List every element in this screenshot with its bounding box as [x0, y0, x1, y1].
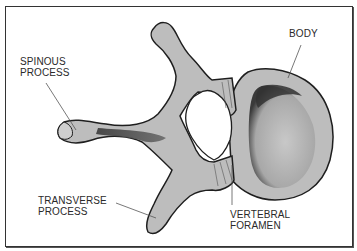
label-spinous-line1: SPINOUS	[20, 56, 70, 67]
label-transverse-line1: TRANSVERSE	[38, 195, 107, 206]
label-transverse-process: TRANSVERSE PROCESS	[38, 195, 107, 217]
label-body-text: BODY	[289, 28, 318, 39]
label-body: BODY	[289, 28, 318, 39]
label-vertebral-foramen: VERTEBRAL FORAMEN	[230, 209, 290, 231]
label-spinous-process: SPINOUS PROCESS	[20, 56, 70, 78]
label-foramen-line2: FORAMEN	[230, 220, 290, 231]
leader-line-body	[288, 45, 301, 78]
leader-line-spinous	[46, 83, 76, 130]
label-transverse-line2: PROCESS	[38, 206, 107, 217]
label-foramen-line1: VERTEBRAL	[230, 209, 290, 220]
label-spinous-line2: PROCESS	[20, 67, 70, 78]
leader-line-transverse	[116, 203, 156, 218]
